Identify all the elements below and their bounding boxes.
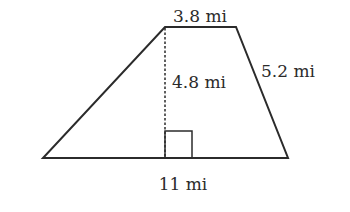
diagram-svg: 3.8 mi 4.8 mi 5.2 mi 11 mi — [0, 0, 350, 212]
height-label: 4.8 mi — [172, 72, 227, 92]
right-angle-marker — [165, 131, 192, 158]
trapezoid-diagram: 3.8 mi 4.8 mi 5.2 mi 11 mi — [0, 0, 350, 212]
top-base-label: 3.8 mi — [173, 6, 228, 26]
bottom-base-label: 11 mi — [159, 174, 208, 194]
right-side-label: 5.2 mi — [261, 61, 316, 81]
